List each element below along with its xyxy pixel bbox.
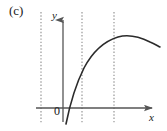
x-axis-label: x: [149, 112, 154, 123]
figure-panel-c: (c) y x 0: [0, 0, 167, 131]
coordinate-plot: [0, 0, 167, 131]
gridlines-vertical: [41, 12, 114, 123]
panel-label: (c): [9, 4, 23, 17]
origin-label: 0: [54, 105, 60, 117]
plot-curve: [66, 36, 160, 124]
y-axis-label: y: [52, 10, 57, 21]
